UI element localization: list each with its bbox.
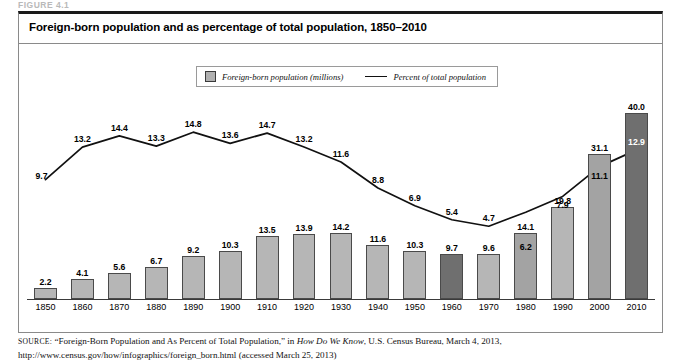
x-tick-1920: 1920 (286, 302, 323, 312)
percent-value-label-1990: 7.9 (544, 200, 581, 210)
source-publication-title: How Do We Know (297, 336, 364, 346)
x-tick-1910: 1910 (249, 302, 286, 312)
bar-1940 (366, 245, 389, 299)
percent-value-label-1940: 8.8 (359, 175, 396, 185)
source-text-1: “Foreign-Born Population and As Percent … (52, 336, 296, 346)
percent-value-label-1960: 5.4 (433, 207, 470, 217)
bar-value-label-1880: 6.7 (138, 256, 175, 266)
bar-value-label-1940: 11.6 (359, 234, 396, 244)
bar-1910 (256, 236, 279, 299)
bar-1920 (293, 234, 316, 298)
bar-1890 (182, 256, 205, 299)
bar-value-label-2010: 40.0 (618, 102, 655, 112)
bar-value-label-1890: 9.2 (175, 245, 212, 255)
chart-legend: Foreign-born population (millions) Perce… (196, 66, 498, 87)
x-tick-1960: 1960 (433, 302, 470, 312)
x-tick-1940: 1940 (359, 302, 396, 312)
bar-1950 (403, 251, 426, 299)
bar-value-label-1900: 10.3 (212, 240, 249, 250)
bar-1880 (145, 267, 168, 298)
bar-1900 (219, 251, 242, 299)
percent-value-label-1850: 9.7 (23, 171, 60, 181)
bar-value-label-1850: 2.2 (27, 277, 64, 287)
percent-value-label-1880: 13.3 (138, 133, 175, 143)
bar-value-label-1920: 13.9 (286, 223, 323, 233)
bar-value-label-1980: 14.1 (507, 222, 544, 232)
x-tick-1990: 1990 (544, 302, 581, 312)
legend-label-bars: Foreign-born population (millions) (222, 72, 343, 82)
percent-value-label-1930: 11.6 (323, 149, 360, 159)
percent-value-label-1920: 13.2 (286, 134, 323, 144)
percent-value-label-1910: 14.7 (249, 120, 286, 130)
bar-value-label-1970: 9.6 (470, 243, 507, 253)
figure-container: Foreign-born population and as percentag… (18, 11, 663, 333)
x-tick-1890: 1890 (175, 302, 212, 312)
bar-1870 (108, 273, 131, 299)
x-tick-1860: 1860 (64, 302, 101, 312)
bar-1990 (551, 207, 574, 299)
percent-value-label-1950: 6.9 (396, 193, 433, 203)
bar-1970 (477, 254, 500, 299)
x-tick-2010: 2010 (618, 302, 655, 312)
percent-value-label-1860: 13.2 (64, 134, 101, 144)
bar-1960 (440, 254, 463, 299)
x-tick-1870: 1870 (101, 302, 138, 312)
legend-item-line: Percent of total population (365, 72, 486, 82)
bar-value-label-1950: 10.3 (396, 240, 433, 250)
x-tick-1980: 1980 (507, 302, 544, 312)
x-tick-1850: 1850 (27, 302, 64, 312)
x-tick-1950: 1950 (396, 302, 433, 312)
bar-value-label-1910: 13.5 (249, 225, 286, 235)
black-line-swatch-icon (365, 76, 387, 77)
percent-value-label-2000: 11.1 (581, 171, 618, 181)
x-tick-1880: 1880 (138, 302, 175, 312)
figure-number-label: FIGURE 4.1 (18, 0, 69, 11)
x-axis-tick-labels: 1850186018701880189019001910192019301940… (27, 302, 655, 316)
percent-value-label-1970: 4.7 (470, 213, 507, 223)
x-tick-1930: 1930 (323, 302, 360, 312)
bar-value-label-1930: 14.2 (323, 222, 360, 232)
title-divider (19, 43, 662, 44)
legend-label-line: Percent of total population (393, 72, 486, 82)
percent-value-label-1890: 14.8 (175, 119, 212, 129)
plot-area: 2.24.15.66.79.210.313.513.914.211.610.39… (27, 99, 655, 300)
legend-item-bars: Foreign-born population (millions) (205, 71, 343, 82)
bar-value-label-1860: 4.1 (64, 268, 101, 278)
bar-value-label-1870: 5.6 (101, 262, 138, 272)
bar-1930 (330, 233, 353, 299)
gray-square-swatch-icon (205, 71, 216, 82)
percent-value-label-1900: 13.6 (212, 130, 249, 140)
source-note: SOURCE: “Foreign-Born Population and As … (18, 335, 668, 361)
percent-value-label-1870: 14.4 (101, 123, 138, 133)
bar-1860 (71, 279, 94, 298)
x-tick-2000: 2000 (581, 302, 618, 312)
percent-value-label-2010: 12.9 (618, 137, 655, 147)
page-title: Foreign-born population and as percentag… (29, 21, 427, 33)
x-tick-1970: 1970 (470, 302, 507, 312)
bar-value-label-1960: 9.7 (433, 243, 470, 253)
x-tick-1900: 1900 (212, 302, 249, 312)
percent-value-label-1980: 6.2 (507, 242, 544, 252)
bar-value-label-2000: 31.1 (581, 143, 618, 153)
bar-1850 (34, 288, 57, 298)
source-prefix: SOURCE: (18, 337, 52, 346)
